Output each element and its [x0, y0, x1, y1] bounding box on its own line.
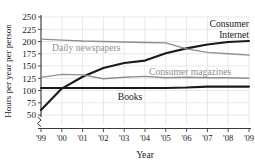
ytick-label-100: 100 — [22, 86, 36, 96]
xtick-label-01: '01 — [78, 133, 88, 143]
xtick-label-03: '03 — [119, 133, 129, 143]
chart-svg: 250 225 200 175 150 125 100 75 50 '99 '0… — [0, 0, 255, 163]
xtick-label-09: '09 — [244, 133, 254, 143]
axis-break-icon — [38, 117, 42, 127]
xtick-label-04: '04 — [140, 133, 151, 143]
ytick-label-150: 150 — [22, 61, 36, 71]
line-chart: 250 225 200 175 150 125 100 75 50 '99 '0… — [0, 0, 255, 163]
ytick-label-225: 225 — [22, 25, 36, 35]
x-axis-title: Year — [136, 149, 154, 160]
ytick-label-50: 50 — [27, 110, 37, 120]
ytick-label-75: 75 — [27, 98, 37, 108]
ytick-label-200: 200 — [22, 37, 36, 47]
books-label: Books — [118, 91, 143, 102]
xtick-label-05: '05 — [161, 133, 171, 143]
ytick-label-125: 125 — [22, 74, 36, 84]
consumer-magazines-label: Consumer magazines — [149, 66, 232, 77]
y-axis-title: Hours per year per person — [3, 24, 13, 118]
daily-newspapers-label: Daily newspapers — [52, 42, 121, 53]
xtick-label-08: '08 — [223, 133, 233, 143]
ytick-label-175: 175 — [22, 49, 36, 59]
consumer-internet-label-line2: Internet — [219, 29, 249, 40]
xtick-label-99: '99 — [36, 133, 46, 143]
xtick-label-06: '06 — [182, 133, 193, 143]
consumer-internet-label-line1: Consumer — [210, 18, 250, 29]
xtick-label-00: '00 — [57, 133, 67, 143]
xtick-label-02: '02 — [98, 133, 108, 143]
ytick-label-250: 250 — [22, 12, 36, 22]
xtick-label-07: '07 — [202, 133, 213, 143]
